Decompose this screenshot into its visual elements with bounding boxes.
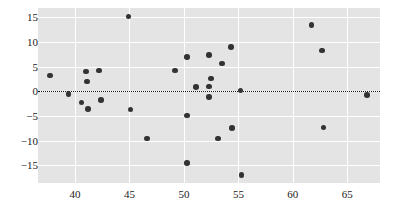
x-tick-label-65: 65 — [342, 189, 353, 200]
data-point — [239, 172, 245, 178]
data-point — [215, 136, 221, 142]
gridline-y-5 — [38, 67, 380, 68]
data-point — [208, 76, 214, 82]
x-tick-label-55: 55 — [233, 189, 244, 200]
data-point — [172, 68, 178, 74]
y-tick-label-15: 15 — [27, 12, 38, 23]
gridline-x-45 — [129, 8, 130, 183]
data-point — [206, 94, 212, 100]
data-point — [206, 84, 212, 90]
data-point — [144, 136, 150, 142]
data-point — [47, 73, 53, 79]
x-tick-label-50: 50 — [178, 189, 189, 200]
data-point — [128, 107, 134, 113]
data-point — [321, 125, 327, 131]
data-point — [319, 48, 325, 54]
gridline-y-15 — [38, 17, 380, 18]
data-point — [184, 113, 190, 119]
data-point — [98, 97, 104, 103]
x-tick-label-60: 60 — [287, 189, 298, 200]
y-tick-label--15: −15 — [21, 160, 38, 171]
y-tick-label-5: 5 — [33, 61, 39, 72]
data-point — [229, 125, 235, 131]
data-point — [364, 92, 370, 98]
y-tick-label-0: 0 — [33, 86, 39, 97]
data-point — [85, 106, 91, 112]
data-point — [96, 68, 102, 74]
data-point — [83, 69, 89, 75]
x-tick-label-40: 40 — [70, 189, 81, 200]
gridline-y--15 — [38, 165, 380, 166]
gridline-x-65 — [347, 8, 348, 183]
x-tick-label-45: 45 — [124, 189, 135, 200]
data-point — [228, 44, 234, 50]
data-point — [309, 22, 315, 28]
gridline-y--5 — [38, 116, 380, 117]
data-point — [66, 91, 72, 97]
y-tick-label--5: −5 — [26, 110, 38, 121]
data-point — [219, 61, 225, 67]
gridline-x-55 — [238, 8, 239, 183]
y-tick-label--10: −10 — [21, 135, 38, 146]
gridline-y--10 — [38, 141, 380, 142]
data-point — [79, 100, 85, 106]
y-tick-label-10: 10 — [27, 37, 38, 48]
gridline-x-50 — [184, 8, 185, 183]
gridline-y-10 — [38, 42, 380, 43]
scatter-plot-figure: 151050−5−10−15 404550556065 — [0, 0, 393, 218]
data-point — [206, 52, 212, 58]
gridline-x-40 — [75, 8, 76, 183]
data-point — [184, 54, 190, 60]
data-point — [193, 84, 199, 90]
plot-panel — [38, 8, 380, 183]
gridline-x-60 — [293, 8, 294, 183]
data-point — [84, 79, 90, 85]
zero-reference-line — [38, 91, 380, 92]
